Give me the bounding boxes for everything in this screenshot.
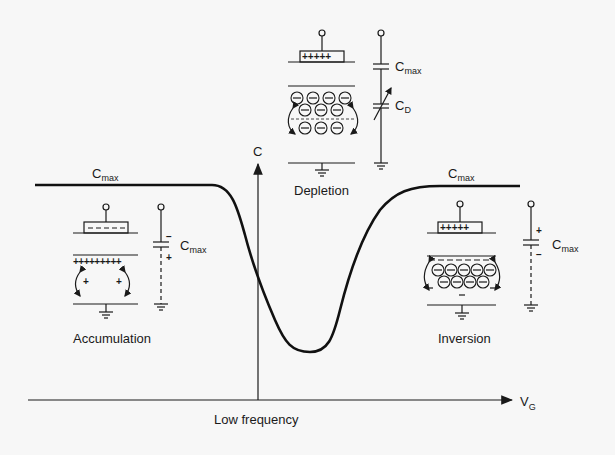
x-axis-label: VG <box>520 394 536 412</box>
depletion-ions <box>291 92 354 134</box>
inversion-region: +++++ Inversion <box>425 201 579 346</box>
inversion-gate-charge: +++++ <box>440 222 469 233</box>
inversion-circuit: + − Cmax <box>523 201 579 311</box>
depletion-gate-charge: +++++ <box>302 51 331 62</box>
accumulation-bulk-charge-right: + <box>116 276 122 287</box>
accumulation-bottom-sign: + <box>166 252 172 263</box>
depletion-cd-label: CD <box>395 98 411 115</box>
y-axis-label: C <box>253 144 262 159</box>
cmax-left-label: Cmax <box>92 166 119 183</box>
inversion-cmax-label: Cmax <box>552 237 579 254</box>
caption: Low frequency <box>214 412 299 427</box>
inversion-ions <box>432 264 496 288</box>
accumulation-bulk-charge-left: + <box>83 276 89 287</box>
cv-diagram: VG C Low frequency Cmax Cmax +++++ <box>0 0 615 455</box>
inversion-top-sign: + <box>536 225 542 236</box>
accumulation-circuit: − + Cmax <box>153 204 207 310</box>
accumulation-cmax-label: Cmax <box>180 238 207 255</box>
diagram-canvas: VG C Low frequency Cmax Cmax +++++ <box>0 0 615 455</box>
depletion-cmax-label: Cmax <box>395 59 422 76</box>
accumulation-top-sign: − <box>166 231 172 242</box>
inversion-bottom-sign: − <box>536 249 542 260</box>
accumulation-label: Accumulation <box>73 331 151 346</box>
accumulation-surface-charge: +++++++++ <box>73 256 122 267</box>
depletion-circuit: Cmax CD <box>373 30 422 169</box>
depletion-region: +++++ Depletion <box>288 30 422 198</box>
accumulation-region: +++++++++ + + Accumulation − + Cmax <box>73 204 207 346</box>
inversion-label: Inversion <box>438 331 491 346</box>
cmax-right-label: Cmax <box>448 166 475 183</box>
depletion-label: Depletion <box>294 183 349 198</box>
